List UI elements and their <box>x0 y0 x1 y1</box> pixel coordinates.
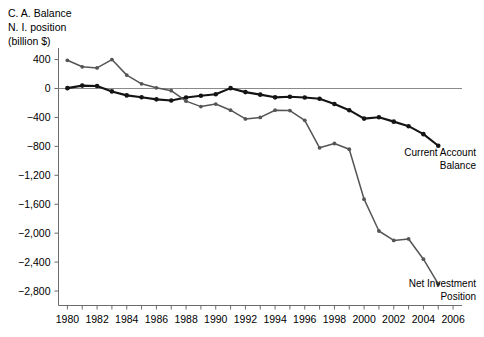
series-point <box>199 93 204 98</box>
series-point <box>214 102 218 106</box>
series-point <box>244 117 248 121</box>
x-axis-tick-label: 1994 <box>263 313 287 325</box>
series-point <box>140 82 144 86</box>
x-axis-tick-label: 1996 <box>293 313 317 325</box>
series-point <box>95 66 99 70</box>
y-axis-tick-label: −2,000 <box>18 227 51 239</box>
series-point <box>66 58 70 62</box>
series-point <box>392 239 396 243</box>
series-point <box>80 83 85 88</box>
series-point <box>332 102 337 107</box>
x-axis-tick-label: 2004 <box>412 313 436 325</box>
chart-container: C. A. BalanceN. I. position(billion $)40… <box>0 0 484 337</box>
series-point <box>302 95 307 100</box>
series-point <box>110 58 114 62</box>
x-axis-tick-label: 1986 <box>145 313 169 325</box>
line-chart: C. A. BalanceN. I. position(billion $)40… <box>0 0 484 337</box>
series-point <box>124 93 129 98</box>
series-line-1 <box>67 86 438 146</box>
series-point <box>273 95 278 100</box>
series-point <box>139 95 144 100</box>
y-axis-tick-label: −1,600 <box>18 198 51 210</box>
series-label-current-account-balance: Balance <box>440 160 477 171</box>
x-axis-tick-label: 1998 <box>323 313 347 325</box>
series-point <box>110 89 115 94</box>
x-axis-tick-label: 2002 <box>382 313 406 325</box>
series-label-net-investment-position: Position <box>440 291 476 302</box>
series-point <box>347 147 351 151</box>
x-axis-tick-label: 2000 <box>352 313 376 325</box>
series-label-current-account-balance: Current Account <box>404 147 476 158</box>
y-axis-tick-label: −2,800 <box>18 285 51 297</box>
series-point <box>229 108 233 112</box>
y-axis-tick-label: −2,400 <box>18 256 51 268</box>
series-point <box>333 142 337 146</box>
x-axis-tick-label: 1988 <box>174 313 198 325</box>
y-axis-tick-label: −400 <box>27 111 51 123</box>
series-point <box>288 109 292 113</box>
y-axis-tick-label: 400 <box>33 53 51 65</box>
series-point <box>377 115 382 120</box>
series-point <box>258 116 262 120</box>
series-point <box>317 96 322 101</box>
axis-title-line: (billion $) <box>8 35 51 47</box>
axis-title-line: N. I. position <box>8 21 67 33</box>
series-point <box>258 92 263 97</box>
series-point <box>288 94 293 99</box>
y-axis-tick-label: −800 <box>27 140 51 152</box>
series-point <box>169 89 173 93</box>
series-point <box>273 108 277 112</box>
series-point <box>422 257 426 261</box>
series-point <box>303 118 307 122</box>
series-point <box>154 97 159 102</box>
series-point <box>95 84 100 89</box>
series-point <box>169 98 174 103</box>
series-point <box>318 146 322 150</box>
series-point <box>243 90 248 95</box>
series-point <box>184 99 188 103</box>
series-point <box>391 119 396 124</box>
series-point <box>65 86 70 91</box>
x-axis-tick-label: 1984 <box>115 313 139 325</box>
series-point <box>155 86 159 90</box>
x-axis-tick-label: 1990 <box>204 313 228 325</box>
y-axis-tick-label: 0 <box>45 82 51 94</box>
series-point <box>406 124 411 129</box>
series-point <box>228 86 233 91</box>
series-point <box>347 108 352 113</box>
series-point <box>362 116 367 121</box>
y-axis-tick-label: −1,200 <box>18 169 51 181</box>
series-point <box>362 197 366 201</box>
series-point <box>199 105 203 109</box>
series-point <box>125 73 129 77</box>
series-label-net-investment-position: Net Investment <box>409 278 476 289</box>
axis-title-line: C. A. Balance <box>8 7 72 19</box>
series-point <box>213 92 218 97</box>
series-point <box>421 132 426 137</box>
x-axis-tick-label: 2006 <box>441 313 465 325</box>
x-axis-tick-label: 1982 <box>85 313 109 325</box>
x-axis-tick-label: 1980 <box>56 313 80 325</box>
series-point <box>80 65 84 69</box>
x-axis-tick-label: 1992 <box>234 313 258 325</box>
series-point <box>407 237 411 241</box>
series-point <box>377 229 381 233</box>
